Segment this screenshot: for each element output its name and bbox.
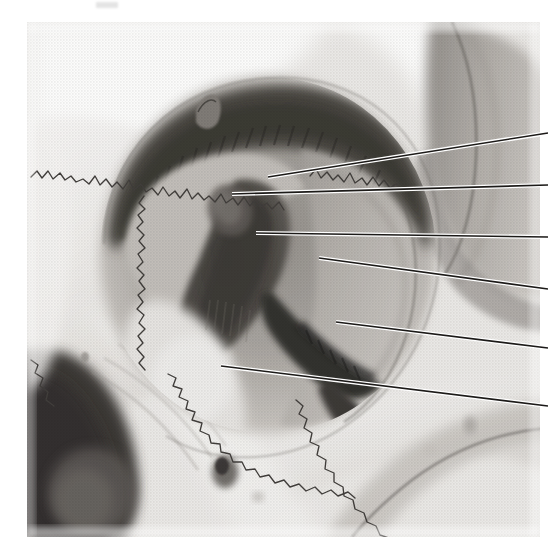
- figure-canvas: [0, 0, 548, 550]
- anatomical-figure: Acetabulum of the hip bone (right latera…: [0, 0, 548, 550]
- top-crop-artifact: [96, 2, 118, 8]
- photograph-plate: [27, 22, 548, 550]
